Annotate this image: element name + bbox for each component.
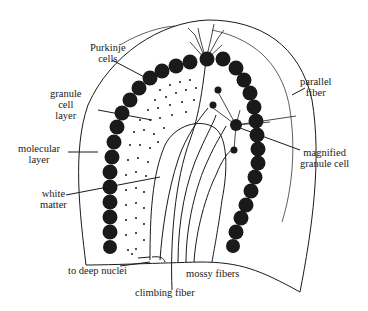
label-white-matter: whitematter [40, 188, 67, 210]
label-climbing-fiber: climbing fiber [135, 287, 195, 298]
label-mossy-fibers: mossy fibers [186, 268, 239, 279]
label-granule-cell-layer: granulecelllayer [50, 88, 82, 121]
label-molecular-layer: molecularlayer [18, 143, 60, 165]
magnified-granule-cell [230, 119, 242, 131]
purkinje-cell-layer [103, 52, 266, 255]
granule-cell-dots [125, 79, 197, 255]
label-to-deep-nuclei: to deep nuclei [68, 265, 127, 276]
label-parallel-fiber: parallelfiber [300, 76, 331, 98]
label-purkinje-cells: Purkinjecells [90, 42, 126, 64]
label-magnified-granule-cell: magnifiedgranule cell [300, 147, 349, 169]
